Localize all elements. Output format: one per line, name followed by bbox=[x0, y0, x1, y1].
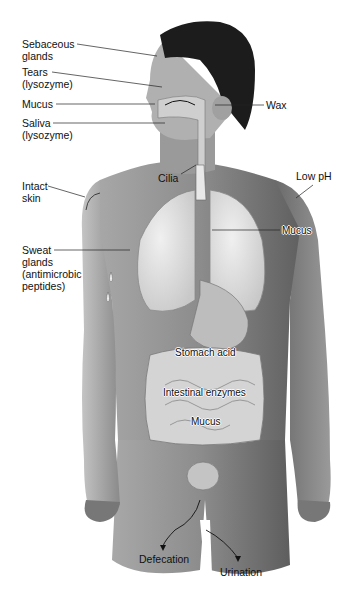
label-defecation: Defecation bbox=[139, 553, 189, 565]
label-mucus-nose: Mucus bbox=[22, 98, 53, 110]
label-line: peptides) bbox=[22, 280, 82, 292]
label-line: Intact bbox=[22, 180, 48, 192]
label-line: (lysozyme) bbox=[22, 129, 73, 141]
label-line: Saliva bbox=[22, 117, 73, 129]
bladder bbox=[187, 462, 219, 490]
label-line: (lysozyme) bbox=[22, 78, 73, 90]
label-cilia: Cilia bbox=[158, 172, 178, 184]
label-stomach-acid: Stomach acid bbox=[175, 347, 236, 358]
label-intestinal-enzymes: Intestinal enzymes bbox=[163, 387, 246, 398]
label-mucus-intestine: Mucus bbox=[191, 416, 220, 427]
label-line: Sweat bbox=[22, 244, 82, 256]
label-line: Tears bbox=[22, 66, 73, 78]
label-line: glands bbox=[22, 256, 82, 268]
trachea bbox=[196, 165, 206, 200]
label-sweat-glands: Sweat glands (antimicrobic peptides) bbox=[22, 244, 82, 292]
label-saliva: Saliva (lysozyme) bbox=[22, 117, 73, 141]
label-line: (antimicrobic bbox=[22, 268, 82, 280]
label-tears: Tears (lysozyme) bbox=[22, 66, 73, 90]
label-line: skin bbox=[22, 192, 48, 204]
label-intact-skin: Intact skin bbox=[22, 180, 48, 204]
label-urination: Urination bbox=[220, 566, 262, 578]
label-line: glands bbox=[22, 50, 75, 62]
label-low-ph: Low pH bbox=[296, 170, 332, 182]
label-line: Sebaceous bbox=[22, 38, 75, 50]
label-wax: Wax bbox=[266, 99, 287, 111]
label-sebaceous-glands: Sebaceous glands bbox=[22, 38, 75, 62]
label-mucus-lungs: Mucus bbox=[282, 225, 311, 236]
